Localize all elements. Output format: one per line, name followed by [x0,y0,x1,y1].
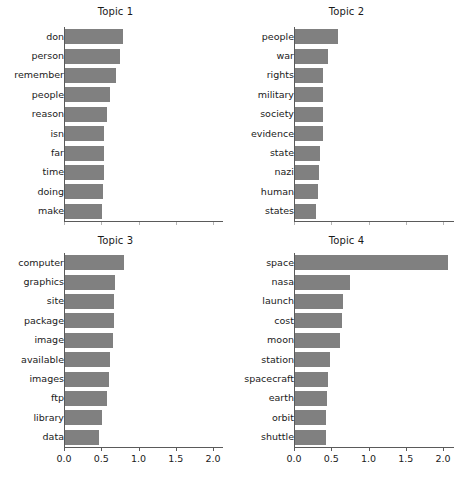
bar [295,410,326,425]
bar [65,275,115,290]
bar [65,68,116,83]
bar-row: graphics [0,275,231,290]
bar [295,352,330,367]
x-axis-tick [294,448,295,451]
x-axis-tick [369,448,370,451]
x-axis-tick [101,448,102,451]
x-axis-tick [406,222,407,225]
bar [295,87,323,102]
x-axis-tick [64,222,65,225]
x-axis-spine [64,221,223,222]
category-label: cost [231,316,298,326]
x-axis-spine [64,447,223,448]
bar-row: cost [231,313,462,328]
bar [65,204,102,219]
x-axis-tick-label: 2.0 [205,453,220,464]
bar-row: time [0,165,231,180]
plot-area: peoplewarrightsmilitarysocietyevidencest… [231,6,462,235]
category-label: far [0,148,68,158]
bar [295,294,343,309]
bar-row: reason [0,107,231,122]
category-label: people [231,32,298,42]
bar-row: images [0,372,231,387]
bar [295,333,340,348]
bar [65,333,113,348]
bar [65,255,124,270]
bar-row: make [0,204,231,219]
bar [65,294,114,309]
bar-row: doing [0,184,231,199]
x-axis-tick-label: 0.5 [94,453,109,464]
bar [295,255,448,270]
category-label: package [0,316,68,326]
bar-row: people [0,87,231,102]
bar [65,313,114,328]
category-label: reason [0,109,68,119]
x-axis-tick-label: 1.5 [168,453,183,464]
bar [295,49,328,64]
category-label: isn [0,129,68,139]
bar [65,29,123,44]
category-label: site [0,296,68,306]
category-label: orbit [231,413,298,423]
bar-row: remember [0,68,231,83]
category-label: people [0,90,68,100]
x-axis-tick-label: 0.0 [56,453,71,464]
bar-row: computer [0,255,231,270]
bar-row: available [0,352,231,367]
category-label: military [231,90,298,100]
x-axis-tick [213,222,214,225]
category-label: earth [231,393,298,403]
bar-row: people [231,29,462,44]
bar-row: isn [0,126,231,141]
category-label: time [0,167,68,177]
category-label: data [0,432,68,442]
category-label: computer [0,258,68,268]
x-axis-spine [294,447,454,448]
bar-row: far [0,146,231,161]
category-label: image [0,335,68,345]
category-label: launch [231,296,298,306]
category-label: moon [231,335,298,345]
bar-row: society [231,107,462,122]
bar-row: don [0,29,231,44]
x-axis-spine [294,221,454,222]
bar [65,107,107,122]
category-label: station [231,355,298,365]
bar [295,107,323,122]
x-axis-tick [139,448,140,451]
x-axis-tick-label: 0.5 [324,453,339,464]
bar [65,87,110,102]
x-axis-tick [443,448,444,451]
x-axis-tick-label: 0.0 [286,453,301,464]
x-axis-tick [176,222,177,225]
bar [65,184,103,199]
bar-row: library [0,410,231,425]
bar-row: earth [231,391,462,406]
plot-area: donpersonrememberpeoplereasonisnfartimed… [0,6,231,235]
panel-topic-2: Topic 2 peoplewarrightsmilitarysocietyev… [231,6,462,235]
bar [65,372,109,387]
category-label: rights [231,70,298,80]
bar-row: space [231,255,462,270]
category-label: spacecraft [231,374,298,384]
bar-row: moon [231,333,462,348]
x-axis-tick [64,448,65,451]
x-axis-tick [213,448,214,451]
bar [295,430,326,445]
bar [295,165,319,180]
bar [295,126,323,141]
bar [295,275,350,290]
category-label: war [231,51,298,61]
x-axis-tick [331,448,332,451]
plot-area: computergraphicssitepackageimageavailabl… [0,235,231,481]
category-label: remember [0,70,68,80]
bar-row: shuttle [231,430,462,445]
category-label: space [231,258,298,268]
bar-row: site [0,294,231,309]
x-axis-tick-label: 1.0 [361,453,376,464]
category-label: person [0,51,68,61]
bar-row: person [0,49,231,64]
bar-row: data [0,430,231,445]
bar-row: nazi [231,165,462,180]
